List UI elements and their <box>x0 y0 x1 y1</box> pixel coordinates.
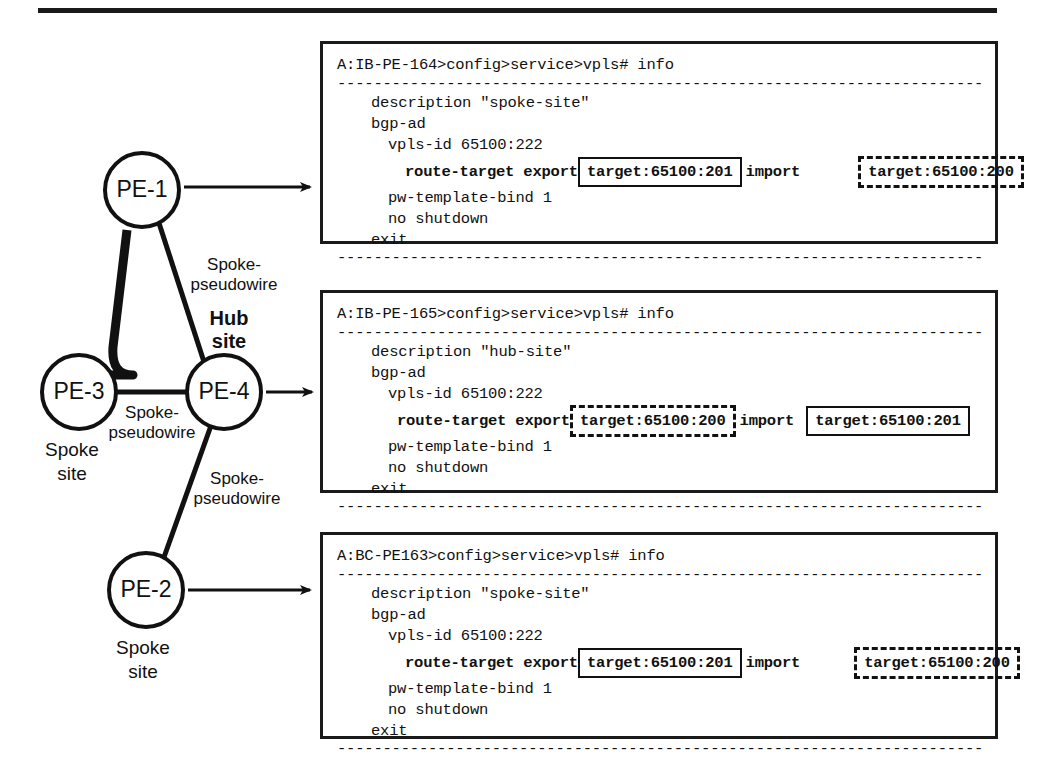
route-target-keyword: route-target export <box>397 412 570 430</box>
edge-label-pe1-pe4-line1: Spoke- <box>207 255 261 274</box>
traffic-path-arrow <box>80 230 133 375</box>
top-divider-rule <box>38 8 997 13</box>
separator-line-bottom: ----------------------------------------… <box>337 742 983 756</box>
cli-prompt-line: A:IB-PE-164>config>service>vpls# info <box>337 56 983 74</box>
import-target-highlight-dashed: target:65100:200 <box>854 647 1020 679</box>
config-line-pw-template-bind: pw-template-bind 1 <box>337 679 983 700</box>
edge-label-pe4-pe2-line1: Spoke- <box>210 469 264 488</box>
export-target-highlight-dashed: target:65100:200 <box>570 405 736 437</box>
import-keyword: import <box>742 654 805 672</box>
import-keyword: import <box>742 163 805 181</box>
edge-label-pe4-pe3-line2: pseudowire <box>109 423 196 442</box>
config-line-exit: exit <box>337 479 983 500</box>
node-pe2-label: PE-2 <box>120 576 171 602</box>
export-target-highlight-solid: target:65100:201 <box>578 648 742 678</box>
config-line-exit: exit <box>337 230 983 251</box>
config-line-no-shutdown: no shutdown <box>337 458 983 479</box>
route-target-row: route-target export target:65100:201 imp… <box>337 156 983 188</box>
pe2-site-label-line1: Spoke <box>116 637 170 658</box>
node-pe3-label: PE-3 <box>53 378 104 404</box>
separator-line-top: ----------------------------------------… <box>337 568 983 582</box>
route-target-keyword: route-target export <box>405 654 578 672</box>
config-line-bgp-ad: bgp-ad <box>337 605 983 626</box>
pe3-site-label-line1: Spoke <box>45 439 99 460</box>
config-line-no-shutdown: no shutdown <box>337 209 983 230</box>
edge-label-pe4-pe2-line2: pseudowire <box>194 489 281 508</box>
config-line-pw-template-bind: pw-template-bind 1 <box>337 188 983 209</box>
config-line-vpls-id: vpls-id 65100:222 <box>337 384 983 405</box>
config-output-panel-pe163: A:BC-PE163>config>service>vpls# info ---… <box>320 532 998 739</box>
export-target-highlight-solid: target:65100:201 <box>578 157 742 187</box>
route-target-row: route-target export target:65100:201 imp… <box>337 647 983 679</box>
pe3-site-label-line2: site <box>57 463 87 484</box>
pe2-site-label-line2: site <box>128 661 158 682</box>
hub-site-label-line1: Hub <box>210 307 249 329</box>
config-output-panel-pe165: A:IB-PE-165>config>service>vpls# info --… <box>320 290 998 493</box>
node-pe1-label: PE-1 <box>116 176 167 202</box>
cli-prompt-line: A:BC-PE163>config>service>vpls# info <box>337 547 983 565</box>
config-output-panel-pe164: A:IB-PE-164>config>service>vpls# info --… <box>320 41 998 244</box>
edge-label-pe1-pe4-line2: pseudowire <box>191 275 278 294</box>
cli-prompt-line: A:IB-PE-165>config>service>vpls# info <box>337 305 983 323</box>
separator-line-top: ----------------------------------------… <box>337 77 983 91</box>
import-target-highlight-dashed: target:65100:200 <box>858 156 1024 188</box>
config-line-no-shutdown: no shutdown <box>337 700 983 721</box>
route-target-row: route-target export target:65100:200 imp… <box>337 405 983 437</box>
config-line-vpls-id: vpls-id 65100:222 <box>337 135 983 156</box>
config-line-description: description "hub-site" <box>337 342 983 363</box>
import-keyword: import <box>736 412 799 430</box>
import-target-highlight-solid: target:65100:201 <box>806 406 970 436</box>
separator-line-bottom: ----------------------------------------… <box>337 251 983 265</box>
hub-site-label-line2: site <box>212 330 246 352</box>
config-line-description: description "spoke-site" <box>337 93 983 114</box>
route-target-keyword: route-target export <box>405 163 578 181</box>
config-line-bgp-ad: bgp-ad <box>337 363 983 384</box>
config-line-exit: exit <box>337 721 983 742</box>
separator-line-top: ----------------------------------------… <box>337 326 983 340</box>
node-pe4-label: PE-4 <box>198 378 249 404</box>
edge-label-pe4-pe3-line1: Spoke- <box>125 403 179 422</box>
config-line-description: description "spoke-site" <box>337 584 983 605</box>
config-line-bgp-ad: bgp-ad <box>337 114 983 135</box>
config-line-vpls-id: vpls-id 65100:222 <box>337 626 983 647</box>
network-topology-diagram: PE-1 PE-3 Spoke site PE-4 Hub site PE-2 … <box>0 20 320 720</box>
config-line-pw-template-bind: pw-template-bind 1 <box>337 437 983 458</box>
separator-line-bottom: ----------------------------------------… <box>337 500 983 514</box>
